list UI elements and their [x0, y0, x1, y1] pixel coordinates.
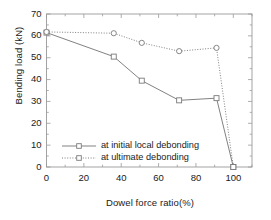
y-tick-label: 60	[20, 29, 42, 40]
data-point-marker	[177, 49, 182, 54]
legend-marker-1	[77, 156, 82, 161]
x-tick-label: 80	[183, 172, 209, 183]
x-tick-label: 0	[34, 172, 60, 183]
x-tick-label: 20	[71, 172, 97, 183]
data-point-marker	[111, 31, 116, 36]
data-point-marker	[214, 45, 219, 50]
data-point-marker	[44, 29, 49, 34]
bending-load-chart-figure: Bending load (kN) Dowel force ratio(%) 0…	[0, 0, 271, 220]
y-tick-label: 0	[20, 161, 42, 172]
legend-marker-0	[77, 144, 82, 149]
legend-label-ultimate-debonding: at ultimate debonding	[101, 152, 189, 162]
x-tick-label: 100	[220, 172, 246, 183]
x-axis-title: Dowel force ratio(%)	[60, 197, 240, 208]
y-tick-label: 40	[20, 73, 42, 84]
y-tick-label: 10	[20, 139, 42, 150]
data-point-marker	[177, 98, 182, 103]
x-tick-label: 60	[146, 172, 172, 183]
y-tick-label: 20	[20, 117, 42, 128]
data-point-marker	[139, 40, 144, 45]
y-tick-label: 50	[20, 51, 42, 62]
x-tick-label: 40	[108, 172, 134, 183]
legend-samples	[62, 144, 96, 161]
data-point-marker	[111, 54, 116, 59]
legend-label-initial-local-debonding: at initial local debonding	[101, 140, 199, 150]
y-tick-label: 30	[20, 95, 42, 106]
y-tick-label: 70	[20, 8, 42, 19]
data-point-marker	[139, 78, 144, 83]
data-point-marker	[214, 96, 219, 101]
data-point-marker	[231, 165, 236, 170]
